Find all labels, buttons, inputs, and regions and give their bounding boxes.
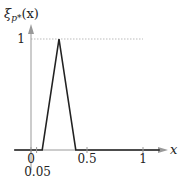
x-tick-label: 0 (27, 152, 35, 166)
y-axis-label: ξp*(x) (4, 6, 39, 23)
x-tick-label: 0.05 (24, 165, 51, 179)
tick-labels: 00.050.511 (17, 32, 146, 179)
y-axis-arrow-icon (28, 24, 34, 34)
x-axis-label: x (170, 142, 178, 157)
x-tick-label: 0.5 (77, 152, 96, 166)
x-tick-label: 1 (139, 152, 147, 166)
membership-function-chart: 00.050.511 ξp*(x) x (0, 0, 188, 182)
series-line (14, 39, 160, 150)
y-tick-label: 1 (17, 32, 25, 46)
data-series (14, 39, 160, 150)
